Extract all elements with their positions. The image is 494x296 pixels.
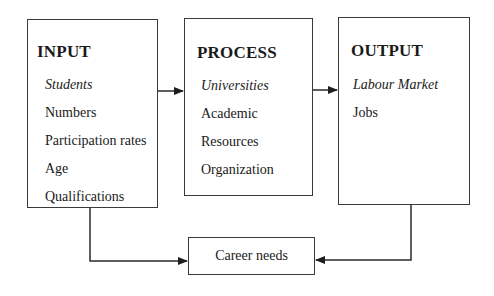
process-item-academic: Academic	[201, 106, 258, 122]
career-needs-box: Career needs	[188, 237, 315, 275]
input-box: INPUT Students Numbers Participation rat…	[27, 19, 158, 208]
process-item-organization: Organization	[201, 162, 274, 178]
process-item-universities: Universities	[201, 78, 269, 94]
output-item-labour-market: Labour Market	[353, 77, 438, 93]
input-title: INPUT	[37, 42, 91, 62]
arrow-output-to-career	[316, 205, 411, 260]
process-item-resources: Resources	[201, 134, 259, 150]
career-needs-label: Career needs	[215, 248, 288, 264]
output-item-jobs: Jobs	[353, 105, 378, 121]
input-item-students: Students	[45, 77, 92, 93]
input-item-qualifications: Qualifications	[45, 189, 124, 205]
input-item-participation-rates: Participation rates	[45, 133, 146, 149]
process-box: PROCESS Universities Academic Resources …	[184, 18, 313, 196]
output-title: OUTPUT	[351, 41, 423, 61]
output-box: OUTPUT Labour Market Jobs	[338, 17, 470, 205]
input-item-numbers: Numbers	[45, 105, 96, 121]
arrow-input-to-career	[90, 208, 187, 261]
process-title: PROCESS	[197, 43, 277, 63]
input-item-age: Age	[45, 161, 68, 177]
